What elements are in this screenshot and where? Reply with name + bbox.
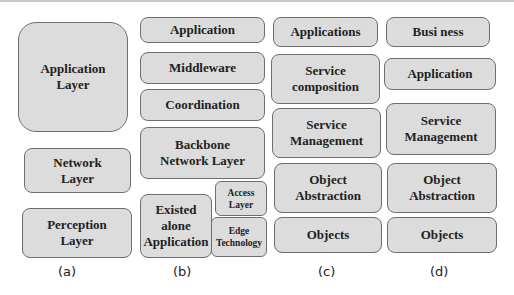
objects-box: Objects [274, 217, 382, 253]
middleware-box: Middleware [140, 52, 265, 84]
backbone-network-layer-box: Backbone Network Layer [140, 127, 265, 179]
edge-technology-box: Edge Technology [211, 217, 267, 257]
application-box-d: Application [384, 58, 496, 90]
network-layer-box: Network Layer [24, 148, 131, 193]
panel-caption-a: (a) [58, 264, 76, 279]
panel-caption-d: (d) [430, 264, 448, 279]
business-box: Busi ness [386, 17, 490, 47]
service-management-box: Service Management [272, 108, 381, 158]
application-box: Application [140, 17, 265, 43]
object-abstraction-box-d: Object Abstraction [387, 163, 497, 213]
perception-layer-box: Perception Layer [22, 208, 132, 258]
service-management-box-d: Service Management [386, 103, 496, 155]
coordination-box: Coordination [140, 89, 265, 121]
top-border-line [0, 0, 514, 2]
object-abstraction-box: Object Abstraction [274, 163, 382, 213]
panel-caption-c: (c) [318, 264, 335, 279]
access-layer-box: Access Layer [215, 181, 267, 216]
service-composition-box: Service composition [271, 54, 380, 104]
panel-caption-b: (b) [173, 264, 191, 279]
applications-box: Applications [273, 17, 378, 47]
existed-alone-application-box: Existed alone Application [140, 194, 212, 258]
objects-box-d: Objects [387, 217, 497, 253]
application-layer-box: Application Layer [18, 22, 128, 132]
